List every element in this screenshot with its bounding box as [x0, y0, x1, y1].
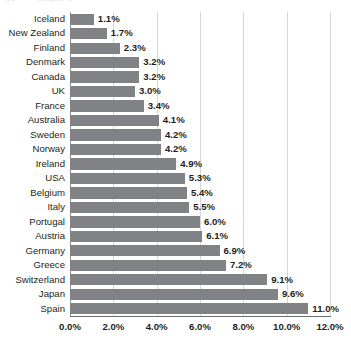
category-label: Sweden — [30, 128, 65, 142]
bar-value-label: 6.1% — [206, 229, 228, 243]
bar — [70, 289, 278, 300]
bar — [70, 86, 135, 97]
category-label: Iceland — [34, 12, 65, 26]
bar — [70, 216, 200, 227]
bar — [70, 173, 185, 184]
x-tick-label: 0.0% — [59, 320, 81, 334]
bar-row: Iceland1.1% — [0, 12, 351, 26]
category-label: Portugal — [29, 215, 65, 229]
category-label: USA — [45, 171, 65, 185]
bar — [70, 158, 176, 169]
bar-value-label: 2.3% — [124, 41, 146, 55]
category-label: Spain — [40, 302, 65, 316]
x-axis-tick-labels: 0.0%2.0%4.0%6.0%8.0%10.0%12.0% — [0, 320, 351, 334]
category-label: Belgium — [30, 186, 65, 200]
category-label: Switzerland — [15, 273, 65, 287]
bar-row: Ireland4.9% — [0, 157, 351, 171]
bar-value-label: 3.0% — [139, 84, 161, 98]
category-label: Denmark — [26, 55, 65, 69]
bar-value-label: 4.1% — [163, 113, 185, 127]
category-label: Ireland — [36, 157, 65, 171]
bar — [70, 57, 139, 68]
bar-value-label: 6.9% — [224, 244, 246, 258]
chapter-label: Chapter 2 — [37, 0, 72, 3]
bar-value-label: 1.1% — [98, 12, 120, 26]
category-label: France — [35, 99, 65, 113]
category-label: Germany — [26, 244, 65, 258]
x-tick-label: 8.0% — [232, 320, 254, 334]
x-tick-label: 6.0% — [189, 320, 211, 334]
bar-value-label: 4.9% — [180, 157, 202, 171]
bar-row: Portugal6.0% — [0, 215, 351, 229]
bar-row: Switzerland9.1% — [0, 273, 351, 287]
category-label: Italy — [47, 200, 65, 214]
bar — [70, 260, 226, 271]
category-label: Canada — [31, 70, 65, 84]
bar-row: New Zealand1.7% — [0, 26, 351, 40]
x-axis-line — [70, 316, 331, 317]
bar — [70, 115, 159, 126]
x-tick-label: 2.0% — [102, 320, 124, 334]
bar-value-label: 6.0% — [204, 215, 226, 229]
bar — [70, 144, 161, 155]
bar-row: Canada3.2% — [0, 70, 351, 84]
category-label: Australia — [28, 113, 65, 127]
bar-row: Austria6.1% — [0, 229, 351, 243]
x-tick-label: 10.0% — [273, 320, 300, 334]
bar-row: France3.4% — [0, 99, 351, 113]
bar-row: Italy5.5% — [0, 200, 351, 214]
page-number: 16 — [6, 0, 15, 3]
bar-row: Sweden4.2% — [0, 128, 351, 142]
x-tick-label: 4.0% — [146, 320, 168, 334]
category-label: New Zealand — [8, 26, 65, 40]
bar-row: Spain11.0% — [0, 302, 351, 316]
bar-row: UK3.0% — [0, 84, 351, 98]
category-label: Austria — [35, 229, 65, 243]
bar-value-label: 5.3% — [189, 171, 211, 185]
bar-value-label: 11.0% — [312, 302, 339, 316]
bar-row: Belgium5.4% — [0, 186, 351, 200]
bar — [70, 28, 107, 39]
bar — [70, 14, 94, 25]
category-label: UK — [52, 84, 65, 98]
bar — [70, 129, 161, 140]
bar-row: USA5.3% — [0, 171, 351, 185]
page-header-ghost: 16Chapter 2 — [6, 0, 72, 4]
category-label: Japan — [39, 287, 65, 301]
bar — [70, 100, 144, 111]
category-label: Greece — [34, 258, 65, 272]
bar-row: Germany6.9% — [0, 244, 351, 258]
bar-value-label: 7.2% — [230, 258, 252, 272]
bar-row: Greece7.2% — [0, 258, 351, 272]
category-label: Norway — [32, 142, 65, 156]
bar-rows: Iceland1.1%New Zealand1.7%Finland2.3%Den… — [0, 12, 351, 316]
bar — [70, 303, 308, 314]
bar-value-label: 3.4% — [148, 99, 170, 113]
bar-value-label: 5.5% — [193, 200, 215, 214]
bar-chart: 16Chapter 2 Iceland1.1%New Zealand1.7%Fi… — [0, 0, 351, 351]
bar — [70, 43, 120, 54]
bar-row: Australia4.1% — [0, 113, 351, 127]
bar-row: Finland2.3% — [0, 41, 351, 55]
bar-row: Norway4.2% — [0, 142, 351, 156]
bar-row: Japan9.6% — [0, 287, 351, 301]
bar-value-label: 9.6% — [282, 287, 304, 301]
bar — [70, 187, 187, 198]
bar — [70, 71, 139, 82]
bar-value-label: 1.7% — [111, 26, 133, 40]
bar-value-label: 3.2% — [143, 55, 165, 69]
bar-row: Denmark3.2% — [0, 55, 351, 69]
bar-value-label: 4.2% — [165, 142, 187, 156]
bar-value-label: 5.4% — [191, 186, 213, 200]
bar — [70, 245, 220, 256]
bar-value-label: 4.2% — [165, 128, 187, 142]
bar — [70, 231, 202, 242]
bar — [70, 274, 267, 285]
bar-value-label: 3.2% — [143, 70, 165, 84]
category-label: Finland — [34, 41, 65, 55]
x-tick-label: 12.0% — [316, 320, 343, 334]
bar — [70, 202, 189, 213]
bar-value-label: 9.1% — [271, 273, 293, 287]
